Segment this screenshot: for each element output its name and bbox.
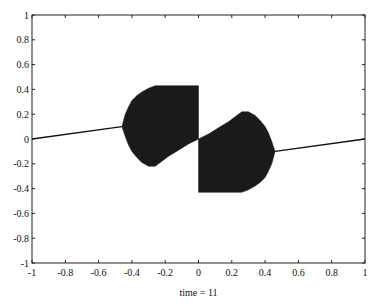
x-axis-label: time = 11 [179, 287, 217, 298]
series-layer [32, 86, 365, 193]
x-tick-label: -0.2 [157, 267, 173, 278]
x-tick-label: 0.2 [226, 267, 239, 278]
y-tick-label: -0.2 [13, 158, 29, 169]
x-tick-label: 0.6 [292, 267, 305, 278]
y-tick-label: 0.4 [17, 84, 30, 95]
x-tick-label: 0 [196, 267, 201, 278]
y-tick-label: 0.8 [17, 34, 30, 45]
y-tick-label: 0.2 [17, 109, 30, 120]
y-tick-label: 0 [24, 134, 29, 145]
y-tick-label: 0.6 [17, 59, 30, 70]
y-tick-label: -0.8 [13, 233, 29, 244]
x-tick-label: -0.4 [124, 267, 140, 278]
x-tick-label: 0.8 [325, 267, 338, 278]
x-tick-label: 1 [363, 267, 368, 278]
right-line [275, 139, 365, 151]
y-tick-label: -1 [21, 258, 29, 269]
x-tick-label: -0.6 [91, 267, 107, 278]
right-oscillation-envelope [199, 112, 276, 193]
left-line [32, 127, 122, 139]
ticks-layer: -1-0.8-0.6-0.4-0.200.20.40.60.81-1-0.8-0… [13, 10, 367, 279]
x-tick-label: -0.8 [57, 267, 73, 278]
y-tick-label: -0.6 [13, 208, 29, 219]
chart: -1-0.8-0.6-0.4-0.200.20.40.60.81-1-0.8-0… [0, 0, 379, 306]
x-tick-label: 0.4 [259, 267, 272, 278]
left-oscillation-envelope [122, 86, 199, 167]
x-tick-label: -1 [28, 267, 36, 278]
y-tick-label: -0.4 [13, 183, 29, 194]
y-tick-label: 1 [24, 10, 29, 21]
